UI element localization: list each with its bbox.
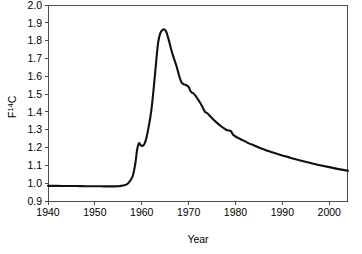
- y-tick-label: 1.6: [27, 70, 42, 82]
- y-axis-title-superscript: 14: [6, 103, 15, 111]
- y-tick-label: 2.0: [27, 0, 42, 11]
- x-axis-title: Year: [187, 233, 209, 245]
- y-tick-label: 1.0: [27, 177, 42, 189]
- y-tick-label: 1.8: [27, 34, 42, 46]
- y-tick-label: 1.4: [27, 106, 42, 118]
- x-tick-label: 1960: [130, 206, 154, 218]
- y-tick-label: 1.7: [27, 52, 42, 64]
- y-tick-label: 1.2: [27, 141, 42, 153]
- bomb-pulse-line-chart: 0.91.01.11.21.31.41.51.61.71.81.92.0 194…: [0, 0, 362, 254]
- x-tick-label: 1990: [271, 206, 295, 218]
- y-tick-label: 1.3: [27, 123, 42, 135]
- page-caption-fragment: [2, 240, 42, 249]
- y-tick-label: 0.9: [27, 195, 42, 207]
- y-axis-title-suffix: C: [6, 95, 18, 103]
- x-tick-label: 2000: [318, 206, 342, 218]
- figure-container: 0.91.01.11.21.31.41.51.61.71.81.92.0 194…: [0, 0, 362, 254]
- x-tick-label: 1940: [36, 206, 60, 218]
- y-tick-label: 1.1: [27, 159, 42, 171]
- x-tick-label: 1970: [177, 206, 201, 218]
- y-tick-label: 1.5: [27, 88, 42, 100]
- x-tick-label: 1980: [224, 206, 248, 218]
- y-tick-label: 1.9: [27, 17, 42, 29]
- x-tick-label: 1950: [83, 206, 107, 218]
